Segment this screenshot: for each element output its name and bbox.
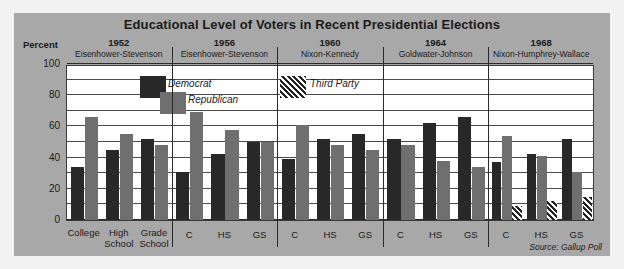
x-axis-category-label: C [172,229,207,240]
x-axis-category-label: GS [348,229,383,240]
legend-swatch-rep [160,92,186,114]
group-candidates: Nixon-Kennedy [277,49,383,59]
x-axis-category-label: HS [418,229,453,240]
y-axis-label: Percent [23,39,58,50]
x-axis-category-label: HS [524,229,559,240]
group-separator [383,47,384,247]
group-header: 1960Nixon-Kennedy [277,37,383,59]
bar-dem [317,139,330,220]
bar-rep [155,145,168,220]
bar-rep [120,134,133,220]
bar-rep [401,145,414,220]
x-axis-category-label: HS [207,229,242,240]
x-axis-category-label: GS [242,229,277,240]
bar-rep [261,142,274,220]
bar-dem [141,139,154,220]
group-header: 1964Goldwater-Johnson [383,37,489,59]
gridline [67,110,593,111]
y-axis-tick-label: 20 [14,183,60,194]
gridline [67,125,593,126]
bar-third [547,201,557,220]
bar-dem [527,154,537,220]
bar-rep [296,125,309,220]
bar-dem [562,139,572,220]
group-header: 1952Eisenhower-Stevenson [66,37,172,59]
bar-third [512,206,522,220]
gridline [67,63,593,64]
bar-dem [247,142,260,220]
bar-dem [492,162,502,220]
x-axis-category-label: C [488,229,523,240]
group-candidates: Eisenhower-Stevenson [66,49,172,59]
group-separator [172,47,173,247]
group-year: 1968 [488,37,594,48]
bar-dem [71,167,84,220]
chart-figure: Educational Level of Voters in Recent Pr… [14,13,610,256]
bar-rep [225,130,238,220]
bar-dem [352,134,365,220]
group-candidates: Eisenhower-Stevenson [172,49,278,59]
group-candidates: Nixon-Humphrey-Wallace [488,49,594,59]
group-header: 1956Eisenhower-Stevenson [172,37,278,59]
x-axis-category-label: HighSchool [101,227,136,249]
x-axis-category-label: GS [453,229,488,240]
x-axis-category-label: HS [312,229,347,240]
bar-dem [176,172,189,220]
bar-third [583,197,593,220]
bar-rep [437,161,450,220]
y-axis-tick-label: 60 [14,120,60,131]
bar-rep [190,112,203,220]
group-candidates: Goldwater-Johnson [383,49,489,59]
bar-dem [211,154,224,220]
x-axis-category-label: College [66,227,101,238]
bar-dem [423,123,436,220]
plot-area: DemocratRepublicanThird Party [66,65,594,221]
legend-swatch-third [280,76,306,98]
bar-rep [472,167,485,220]
group-separator [488,47,489,247]
y-axis-tick-label: 80 [14,89,60,100]
legend-label: Republican [188,94,238,105]
y-axis-tick-label: 0 [14,214,60,225]
bar-dem [282,159,295,220]
chart-title: Educational Level of Voters in Recent Pr… [14,17,610,32]
bar-rep [331,145,344,220]
y-axis-tick-label: 40 [14,152,60,163]
group-header: 1968Nixon-Humphrey-Wallace [488,37,594,59]
bar-rep [85,117,98,220]
bar-rep [537,156,547,220]
bar-rep [502,136,512,220]
x-axis-category-label: GradeSchool [136,227,171,249]
legend-label: Democrat [168,78,211,89]
x-axis-category-label: GS [559,229,594,240]
bar-dem [106,150,119,220]
y-axis-tick-label: 100 [14,58,60,69]
bar-rep [366,150,379,220]
bar-rep [572,172,582,220]
group-year: 1964 [383,37,489,48]
x-axis-category-label: C [383,229,418,240]
group-year: 1952 [66,37,172,48]
group-separator [277,47,278,247]
bar-dem [387,139,400,220]
group-year: 1956 [172,37,278,48]
legend-label: Third Party [310,78,359,89]
source-note: Source: Gallup Poll [529,242,602,252]
bar-dem [458,117,471,220]
x-axis-category-label: C [277,229,312,240]
group-year: 1960 [277,37,383,48]
